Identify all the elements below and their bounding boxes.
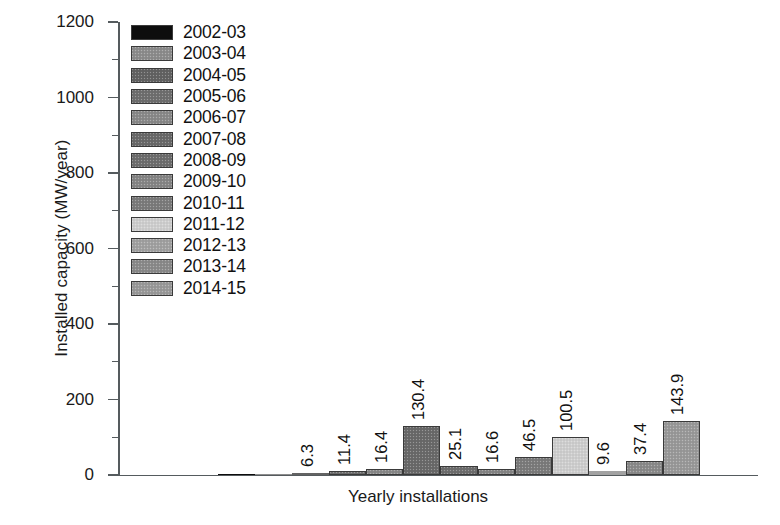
legend-swatch-icon	[131, 238, 173, 253]
bar-2005-06[interactable]	[329, 471, 366, 475]
bar-slot: 25.1	[440, 22, 477, 475]
bar-slot: 100.5	[552, 22, 589, 475]
bar-2011-12[interactable]	[552, 437, 589, 475]
legend-item-2013-14[interactable]: 2013-14	[131, 256, 296, 277]
bar-value-label: 37.4	[631, 423, 650, 455]
y-tick-label: 400	[28, 314, 94, 334]
legend-item-2008-09[interactable]: 2008-09	[131, 150, 296, 171]
bar-value-label: 6.3	[298, 444, 317, 467]
y-tick-major	[108, 248, 118, 250]
chart-legend: 2002-032003-042004-052005-062006-072007-…	[131, 22, 296, 299]
y-tick-label: 200	[28, 390, 94, 410]
bar-slot: 9.6	[589, 22, 626, 475]
bar-value-label: 25.1	[446, 427, 465, 459]
legend-swatch-icon	[131, 259, 173, 274]
bar-value-label: 143.9	[668, 373, 687, 414]
bar-slot: 130.4	[403, 22, 440, 475]
y-tick-label: 0	[28, 465, 94, 485]
y-tick-major	[108, 172, 118, 174]
legend-label: 2006-07	[183, 107, 246, 128]
legend-swatch-icon	[131, 46, 173, 61]
legend-label: 2013-14	[183, 256, 246, 277]
bar-slot: 143.9	[663, 22, 700, 475]
legend-label: 2003-04	[183, 43, 246, 64]
bar-value-label: 9.6	[594, 442, 613, 465]
legend-swatch-icon	[131, 110, 173, 125]
legend-swatch-icon	[131, 132, 173, 147]
legend-item-2004-05[interactable]: 2004-05	[131, 65, 296, 86]
legend-swatch-icon	[131, 89, 173, 104]
legend-label: 2011-12	[183, 214, 245, 235]
bar-2014-15[interactable]	[663, 421, 700, 475]
bar-2007-08[interactable]	[403, 426, 440, 475]
bar-2013-14[interactable]	[626, 461, 663, 475]
bar-value-label: 16.6	[483, 431, 502, 463]
legend-item-2010-11[interactable]: 2010-11	[131, 192, 296, 213]
y-tick-major	[108, 97, 118, 99]
bar-value-label: 130.4	[409, 378, 428, 419]
bar-slot: 16.6	[478, 22, 515, 475]
bar-value-label: 100.5	[557, 390, 576, 431]
bar-2012-13[interactable]	[589, 471, 626, 475]
bar-value-label: 11.4	[335, 434, 354, 465]
bar-2006-07[interactable]	[366, 469, 403, 475]
legend-item-2012-13[interactable]: 2012-13	[131, 235, 296, 256]
y-tick-label: 600	[28, 239, 94, 259]
bar-2009-10[interactable]	[478, 469, 515, 475]
legend-label: 2012-13	[183, 235, 246, 256]
legend-item-2002-03[interactable]: 2002-03	[131, 22, 296, 43]
bar-slot: 6.3	[292, 22, 329, 475]
bar-slot: 46.5	[515, 22, 552, 475]
legend-item-2006-07[interactable]: 2006-07	[131, 107, 296, 128]
legend-item-2011-12[interactable]: 2011-12	[131, 214, 296, 235]
legend-swatch-icon	[131, 68, 173, 83]
bar-2008-09[interactable]	[440, 466, 477, 475]
legend-label: 2009-10	[183, 171, 246, 192]
bar-value-label: 46.5	[520, 419, 539, 451]
legend-label: 2008-09	[183, 150, 246, 171]
x-axis-title: Yearly installations	[118, 487, 718, 507]
legend-swatch-icon	[131, 281, 173, 296]
y-tick-label: 1200	[28, 12, 94, 32]
legend-swatch-icon	[131, 217, 173, 232]
bar-2002-03[interactable]	[218, 474, 255, 476]
legend-label: 2010-11	[183, 193, 245, 214]
legend-swatch-icon	[131, 25, 173, 40]
bar-2004-05[interactable]	[292, 473, 329, 475]
legend-item-2014-15[interactable]: 2014-15	[131, 278, 296, 299]
legend-item-2005-06[interactable]: 2005-06	[131, 86, 296, 107]
y-tick-label: 800	[28, 163, 94, 183]
y-tick-major	[108, 21, 118, 23]
y-tick-label: 1000	[28, 88, 94, 108]
bar-2003-04[interactable]	[255, 474, 292, 476]
legend-label: 2014-15	[183, 278, 246, 299]
legend-label: 2007-08	[183, 129, 246, 150]
bar-slot: 11.4	[329, 22, 366, 475]
legend-item-2003-04[interactable]: 2003-04	[131, 43, 296, 64]
y-tick-major	[108, 323, 118, 325]
y-tick-major	[108, 474, 118, 476]
legend-swatch-icon	[131, 196, 173, 211]
legend-item-2009-10[interactable]: 2009-10	[131, 171, 296, 192]
bar-slot: 16.4	[366, 22, 403, 475]
legend-label: 2004-05	[183, 65, 246, 86]
y-tick-major	[108, 399, 118, 401]
legend-swatch-icon	[131, 174, 173, 189]
legend-label: 2002-03	[183, 22, 246, 43]
legend-swatch-icon	[131, 153, 173, 168]
bar-chart-figure: Installed capacity (MW/year) 12001000800…	[0, 0, 780, 525]
legend-label: 2005-06	[183, 86, 246, 107]
legend-item-2007-08[interactable]: 2007-08	[131, 128, 296, 149]
bar-value-label: 16.4	[372, 431, 391, 463]
bar-2010-11[interactable]	[515, 457, 552, 475]
bar-slot: 37.4	[626, 22, 663, 475]
